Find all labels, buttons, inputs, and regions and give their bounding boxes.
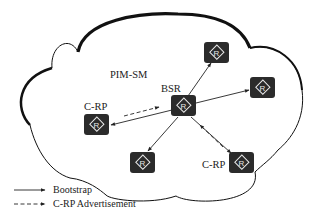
router-icon: R: [204, 42, 229, 63]
legend-label-bootstrap: Bootstrap: [53, 185, 92, 195]
router-node-crp-left: R: [84, 114, 109, 135]
svg-text:R: R: [94, 121, 100, 130]
node-label-bsr: BSR: [161, 84, 181, 95]
router-node-bsr: R: [171, 95, 196, 116]
node-label-crp-right: C-RP: [202, 160, 225, 171]
svg-text:R: R: [260, 84, 266, 93]
domain-label: PIM-SM: [110, 70, 147, 81]
router-node-crp-right: R: [229, 152, 254, 173]
svg-text:R: R: [239, 159, 245, 168]
router-node-top: R: [204, 42, 229, 63]
router-node-right: R: [250, 77, 275, 98]
router-icon: R: [84, 114, 109, 135]
pim-sm-bsr-diagram: R R R R R R PIM-SM BSR C-RP C-RP: [0, 0, 316, 219]
router-icon: R: [171, 95, 196, 116]
diagram-canvas: [0, 0, 316, 219]
legend-label-crp-advertisement: C-RP Advertisement: [53, 199, 136, 209]
node-label-crp-left: C-RP: [84, 102, 107, 113]
router-icon: R: [250, 77, 275, 98]
svg-text:R: R: [214, 49, 220, 58]
svg-text:R: R: [140, 159, 146, 168]
legend-lines: [14, 190, 45, 204]
router-node-bottom-left: R: [130, 152, 155, 173]
svg-text:R: R: [181, 102, 187, 111]
router-icon: R: [229, 152, 254, 173]
router-icon: R: [130, 152, 155, 173]
cloud-outline: [21, 14, 303, 201]
